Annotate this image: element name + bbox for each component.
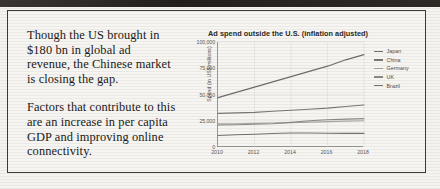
legend-label: Japan [387, 48, 402, 54]
y-tick-label: 50,000 [185, 92, 215, 98]
x-axis-ticks: 20102012201420162018 [217, 149, 363, 159]
top-bar-gradient [0, 0, 440, 7]
legend-label: Germany [387, 65, 409, 71]
legend-label: China [387, 57, 401, 63]
y-tick-label: 100,000 [185, 39, 215, 45]
gridlines [218, 42, 364, 147]
legend-swatch-icon [374, 76, 383, 78]
x-tick-label: 2010 [211, 149, 223, 155]
plot-svg [218, 42, 364, 147]
scanned-page: Though the US brought in $180 bn in glob… [0, 0, 440, 189]
x-tick-label: 2016 [321, 149, 333, 155]
legend-swatch-icon [374, 68, 383, 70]
x-tick-label: 2014 [284, 149, 296, 155]
legend-item[interactable]: Brazil [374, 81, 428, 90]
y-tick-label: 75,000 [185, 65, 215, 71]
legend-item[interactable]: UK [374, 73, 428, 82]
legend-label: UK [387, 74, 394, 80]
page-top-bar [0, 0, 440, 7]
paragraph-one: Though the US brought in $180 bn in glob… [27, 28, 177, 86]
legend-item[interactable]: China [374, 56, 428, 65]
legend-swatch-icon [374, 51, 383, 53]
legend-label: Brazil [387, 83, 401, 89]
plot-area [217, 42, 363, 147]
line-chart: Ad spend outside the U.S. (inflation adj… [184, 25, 428, 173]
legend-item[interactable]: Germany [374, 64, 428, 73]
legend-item[interactable]: Japan [374, 47, 428, 56]
text-column: Though the US brought in $180 bn in glob… [27, 28, 177, 159]
content-box: Though the US brought in $180 bn in glob… [7, 10, 426, 173]
chart-legend: JapanChinaGermanyUKBrazil [374, 47, 428, 90]
paragraph-two: Factors that contribute to this are an i… [27, 100, 177, 158]
chart-title: Ad spend outside the U.S. (inflation adj… [208, 29, 368, 38]
x-tick-label: 2012 [248, 149, 260, 155]
legend-swatch-icon [374, 85, 383, 87]
y-tick-label: 25,000 [185, 118, 215, 124]
legend-swatch-icon [374, 59, 383, 61]
x-tick-label: 2018 [357, 149, 369, 155]
y-axis-ticks: 025,00050,00075,000100,000 [184, 42, 215, 147]
